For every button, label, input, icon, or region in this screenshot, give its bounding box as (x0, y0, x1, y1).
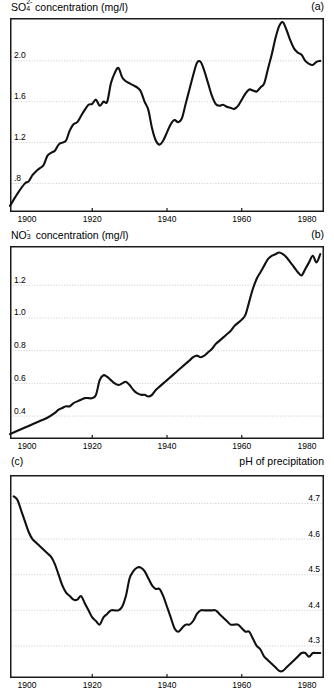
panel-a-title-charge: 2-4 (26, 0, 32, 11)
data-series-line (10, 22, 320, 206)
plot-frame (11, 476, 324, 678)
panel-b-title-charge: -3 (27, 228, 33, 239)
y-tick-label: 0.6 (14, 373, 26, 383)
panel-a-title: SO2-4 concentration (mg/l) (11, 0, 128, 14)
panel-a-plot: 19001920194019601980.81.21.62.0 (0, 16, 334, 228)
y-tick-label: 0.4 (14, 406, 26, 416)
panel-c-plot: 190019201940196019804.34.44.54.64.7 (0, 471, 334, 694)
panel-a-title-rest: concentration (mg/l) (32, 1, 128, 13)
x-tick-label: 1920 (83, 441, 102, 451)
panel-c-header: (c) pH of precipitation (0, 455, 334, 471)
panel-c: (c) pH of precipitation 1900192019401960… (0, 455, 334, 694)
panel-a-svg: 19001920194019601980.81.21.62.0 (0, 16, 334, 228)
x-tick-label: 1940 (158, 441, 177, 451)
y-tick-label: 4.5 (308, 564, 320, 574)
y-tick-label: 4.7 (308, 493, 320, 503)
panel-a: SO2-4 concentration (mg/l) (a) 190019201… (0, 0, 334, 228)
plot-frame (11, 19, 324, 212)
panel-b-title-rest: concentration (mg/l) (33, 229, 129, 241)
x-tick-label: 1900 (17, 441, 36, 451)
y-tick-label: 2.0 (14, 50, 26, 60)
figure-three-panel-timeseries: SO2-4 concentration (mg/l) (a) 190019201… (0, 0, 334, 694)
data-series-line (10, 253, 320, 435)
x-tick-label: 1980 (298, 214, 317, 224)
y-tick-label: .8 (14, 173, 21, 183)
y-tick-label: 4.3 (308, 635, 320, 645)
panel-b-tag: (b) (311, 228, 324, 241)
panel-c-tag: (c) (11, 455, 23, 468)
panel-b-title-superscript: - (27, 226, 29, 233)
x-tick-label: 1960 (232, 680, 251, 690)
x-tick-label: 1920 (83, 680, 102, 690)
x-tick-label: 1980 (298, 441, 317, 451)
x-tick-label: 1920 (83, 214, 102, 224)
x-tick-label: 1980 (298, 680, 317, 690)
y-tick-label: 1.6 (14, 91, 26, 101)
panel-b-svg: 190019201940196019800.40.60.81.01.2 (0, 244, 334, 455)
panel-a-title-subscript: 4 (26, 5, 30, 12)
panel-c-title: pH of precipitation (239, 455, 324, 468)
x-tick-label: 1900 (17, 214, 36, 224)
panel-b-title: NO-3 concentration (mg/l) (11, 228, 128, 242)
panel-b-title-subscript: 3 (27, 233, 31, 240)
x-tick-label: 1960 (232, 214, 251, 224)
panel-b: NO-3 concentration (mg/l) (b) 1900192019… (0, 228, 334, 455)
y-tick-label: 1.2 (14, 132, 26, 142)
y-tick-label: 1.0 (14, 307, 26, 317)
x-tick-label: 1960 (232, 441, 251, 451)
x-tick-label: 1900 (17, 680, 36, 690)
y-tick-label: 4.4 (308, 600, 320, 610)
x-tick-label: 1940 (158, 680, 177, 690)
data-series-line (14, 496, 321, 671)
x-tick-label: 1940 (158, 214, 177, 224)
panel-b-title-prefix: NO (11, 229, 27, 241)
panel-a-title-prefix: SO (11, 1, 26, 13)
panel-b-header: NO-3 concentration (mg/l) (b) (0, 228, 334, 244)
panel-a-tag: (a) (311, 0, 324, 13)
y-tick-label: 4.6 (308, 529, 320, 539)
panel-c-svg: 190019201940196019804.34.44.54.64.7 (0, 471, 334, 694)
y-tick-label: 1.2 (14, 275, 26, 285)
panel-a-header: SO2-4 concentration (mg/l) (a) (0, 0, 334, 16)
y-tick-label: 0.8 (14, 340, 26, 350)
panel-b-plot: 190019201940196019800.40.60.81.01.2 (0, 244, 334, 455)
